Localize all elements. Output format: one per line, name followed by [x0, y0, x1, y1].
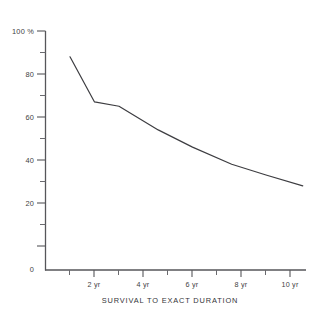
- x-axis-label-6yr: 6 yr: [186, 280, 199, 289]
- survival-chart-figure: 100 % 80 60 40 20 0 2 yr 4 yr 6 yr: [0, 0, 321, 319]
- y-axis-label-100: 100 %: [12, 27, 34, 36]
- y-axis-label-60: 60: [25, 113, 34, 122]
- y-axis-label-80: 80: [25, 70, 34, 79]
- x-axis-label-4yr: 4 yr: [137, 280, 150, 289]
- y-axis-label-20: 20: [25, 199, 34, 208]
- x-axis-label-10yr: 10 yr: [282, 280, 299, 289]
- x-axis-title: SURVIVAL TO EXACT DURATION: [102, 296, 238, 305]
- y-axis-label-0: 0: [30, 265, 34, 274]
- chart-svg: 100 % 80 60 40 20 0 2 yr 4 yr 6 yr: [0, 0, 321, 319]
- chart-background: [0, 0, 321, 319]
- x-axis-label-2yr: 2 yr: [88, 280, 101, 289]
- y-axis-label-40: 40: [25, 156, 34, 165]
- x-axis-label-8yr: 8 yr: [235, 280, 248, 289]
